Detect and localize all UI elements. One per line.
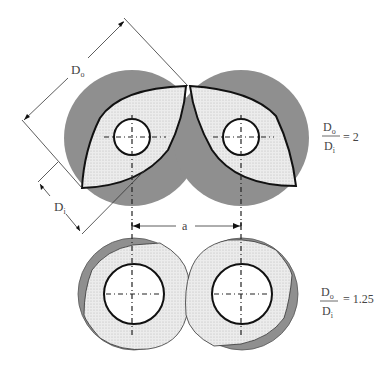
top-configuration: Do Di Do Di = 2	[22, 18, 359, 234]
svg-text:Do: Do	[323, 120, 336, 136]
bottom-configuration: Do Di = 1.25	[78, 234, 374, 350]
twin-screw-diagram: Do Di Do Di = 2 a	[0, 0, 390, 374]
svg-text:Di: Di	[322, 304, 334, 320]
ratio-top: Do Di = 2	[322, 120, 359, 155]
svg-text:Di: Di	[324, 139, 336, 155]
svg-text:= 1.25: = 1.25	[343, 292, 374, 306]
svg-text:Do: Do	[321, 285, 334, 301]
arrowhead-icon	[118, 21, 124, 27]
svg-text:= 2: = 2	[343, 130, 359, 144]
a-dimension: a	[132, 219, 241, 233]
arrowhead-icon	[76, 225, 80, 231]
a-label: a	[182, 219, 188, 233]
ratio-bottom: Do Di = 1.25	[320, 285, 374, 320]
di-label: Di	[54, 199, 66, 216]
arrowhead-icon	[40, 184, 44, 190]
do-label: Do	[71, 62, 84, 79]
